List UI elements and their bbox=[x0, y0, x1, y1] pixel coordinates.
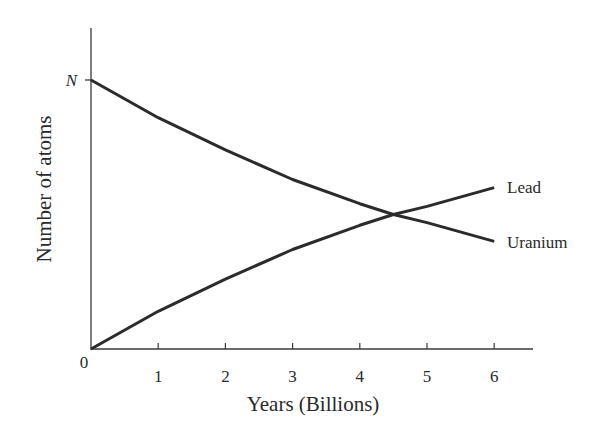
series-line-lead bbox=[91, 188, 494, 349]
series-line-uranium bbox=[91, 80, 494, 241]
chart: 123456 N 0 Years (Billions) Number of at… bbox=[0, 0, 607, 443]
series-lines bbox=[91, 80, 494, 349]
x-tick-label: 2 bbox=[221, 367, 230, 386]
x-tick-label: 4 bbox=[356, 367, 365, 386]
x-tick-label: 1 bbox=[154, 367, 163, 386]
x-tick-label: 6 bbox=[490, 367, 499, 386]
series-label-uranium: Uranium bbox=[507, 233, 567, 252]
x-axis-title: Years (Billions) bbox=[247, 392, 380, 416]
axes bbox=[85, 28, 533, 350]
x-tick-label: 3 bbox=[288, 367, 297, 386]
y-axis-title: Number of atoms bbox=[32, 116, 56, 263]
x-tick-label: 5 bbox=[423, 367, 432, 386]
y-tick-label-n: N bbox=[65, 71, 79, 90]
series-label-lead: Lead bbox=[507, 178, 541, 197]
origin-label: 0 bbox=[80, 353, 89, 372]
